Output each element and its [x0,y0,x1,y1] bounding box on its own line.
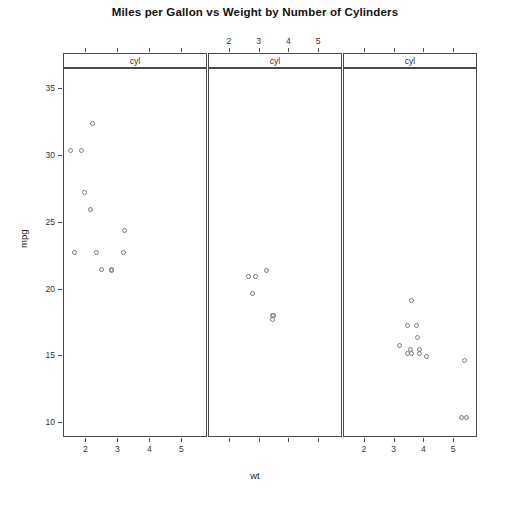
panel-strip-0: cyl [63,53,207,68]
x-tickmark-top [181,48,182,52]
x-tickmark-bottom [288,438,289,442]
x-tickmark-bottom [181,438,182,442]
x-tickmark-top [85,48,86,52]
x-tick-label: 2 [83,444,88,454]
panel-2 [343,68,477,437]
x-tickmark-bottom [149,438,150,442]
x-tickmark-bottom [85,438,86,442]
y-tickmark [58,222,62,223]
data-point [79,148,84,153]
data-point [397,343,402,348]
x-tickmark-bottom [453,438,454,442]
y-tick-label: 10 [35,417,55,427]
y-axis-label: mpg [18,230,29,248]
data-point [246,274,251,279]
x-tick-label: 5 [179,444,184,454]
x-tick-label: 4 [147,444,152,454]
x-tickmark-top [149,48,150,52]
data-point [122,228,127,233]
x-tick-label: 5 [316,36,321,46]
x-axis-label: wt [0,470,510,481]
x-tickmark-top [288,48,289,52]
data-point [250,291,255,296]
data-point [88,207,93,212]
x-tick-label: 3 [391,444,396,454]
x-tickmark-top [394,48,395,52]
y-tickmark [58,155,62,156]
data-point [409,298,414,303]
x-tickmark-top [117,48,118,52]
chart-title: Miles per Gallon vs Weight by Number of … [0,6,510,18]
x-tickmark-top [318,48,319,52]
x-tickmark-top [364,48,365,52]
data-point [82,190,87,195]
y-tickmark [58,422,62,423]
x-tick-label: 3 [115,444,120,454]
x-tickmark-bottom [423,438,424,442]
data-point [68,148,73,153]
data-point [415,335,420,340]
x-tick-label: 2 [361,444,366,454]
x-tick-label: 4 [286,36,291,46]
x-tickmark-bottom [364,438,365,442]
y-tick-label: 15 [35,350,55,360]
data-point [94,250,99,255]
data-point [109,267,114,272]
x-tickmark-bottom [117,438,118,442]
x-tickmark-top [423,48,424,52]
data-point [72,250,77,255]
chart-figure: Miles per Gallon vs Weight by Number of … [0,0,510,514]
y-tick-label: 25 [35,217,55,227]
panel-1 [208,68,342,437]
data-point [270,317,275,322]
x-tick-label: 5 [451,444,456,454]
y-tickmark [58,88,62,89]
data-point [424,354,429,359]
data-point [414,323,419,328]
x-tickmark-bottom [229,438,230,442]
x-tick-label: 3 [256,36,261,46]
panel-strip-label: cyl [405,56,415,66]
data-point [417,351,422,356]
x-tickmark-bottom [259,438,260,442]
panel-strip-label: cyl [130,56,140,66]
y-tick-label: 20 [35,284,55,294]
data-point [121,250,126,255]
data-point [264,268,269,273]
y-tickmark [58,289,62,290]
y-tick-label: 35 [35,83,55,93]
data-point [464,415,469,420]
panel-strip-1: cyl [208,53,342,68]
data-point [253,274,258,279]
panel-strip-2: cyl [343,53,477,68]
x-tickmark-top [453,48,454,52]
data-point [99,267,104,272]
x-tickmark-top [229,48,230,52]
x-tickmark-top [259,48,260,52]
data-point [405,323,410,328]
panel-strip-label: cyl [270,56,280,66]
x-tickmark-bottom [318,438,319,442]
y-tick-label: 30 [35,150,55,160]
data-point [90,121,95,126]
x-tickmark-bottom [394,438,395,442]
data-point [462,358,467,363]
y-tickmark [58,355,62,356]
x-tick-label: 4 [421,444,426,454]
x-tick-label: 2 [226,36,231,46]
panel-0 [63,68,207,437]
